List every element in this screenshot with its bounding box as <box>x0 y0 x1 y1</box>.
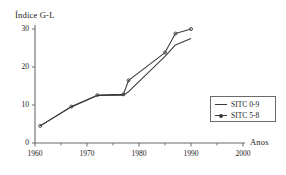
legend-label-series-0: SITC 0-9 <box>231 100 259 109</box>
x-tick-label: 1970 <box>74 149 100 158</box>
line-key-icon <box>214 100 228 109</box>
y-tick-label: 10 <box>13 100 29 109</box>
line-dot-key-icon <box>214 111 228 120</box>
x-tick-label: 1980 <box>126 149 152 158</box>
y-tick-label: 20 <box>13 62 29 71</box>
x-tick-label: 1960 <box>22 149 48 158</box>
chart-figure: Índice G-L Anos 0102030 1960197019801990… <box>0 0 286 175</box>
legend-item-series-1[interactable]: SITC 5-8 <box>214 110 272 121</box>
y-tick-label: 30 <box>13 24 29 33</box>
series-line-0 <box>40 39 191 126</box>
legend-label-series-1: SITC 5-8 <box>231 111 259 120</box>
chart-legend: SITC 0-9 SITC 5-8 <box>210 96 276 122</box>
y-tick-label: 0 <box>13 138 29 147</box>
x-tick-label: 1990 <box>178 149 204 158</box>
x-tick-label: 2000 <box>230 149 256 158</box>
legend-item-series-0[interactable]: SITC 0-9 <box>214 99 272 110</box>
series-line-1 <box>40 29 191 126</box>
